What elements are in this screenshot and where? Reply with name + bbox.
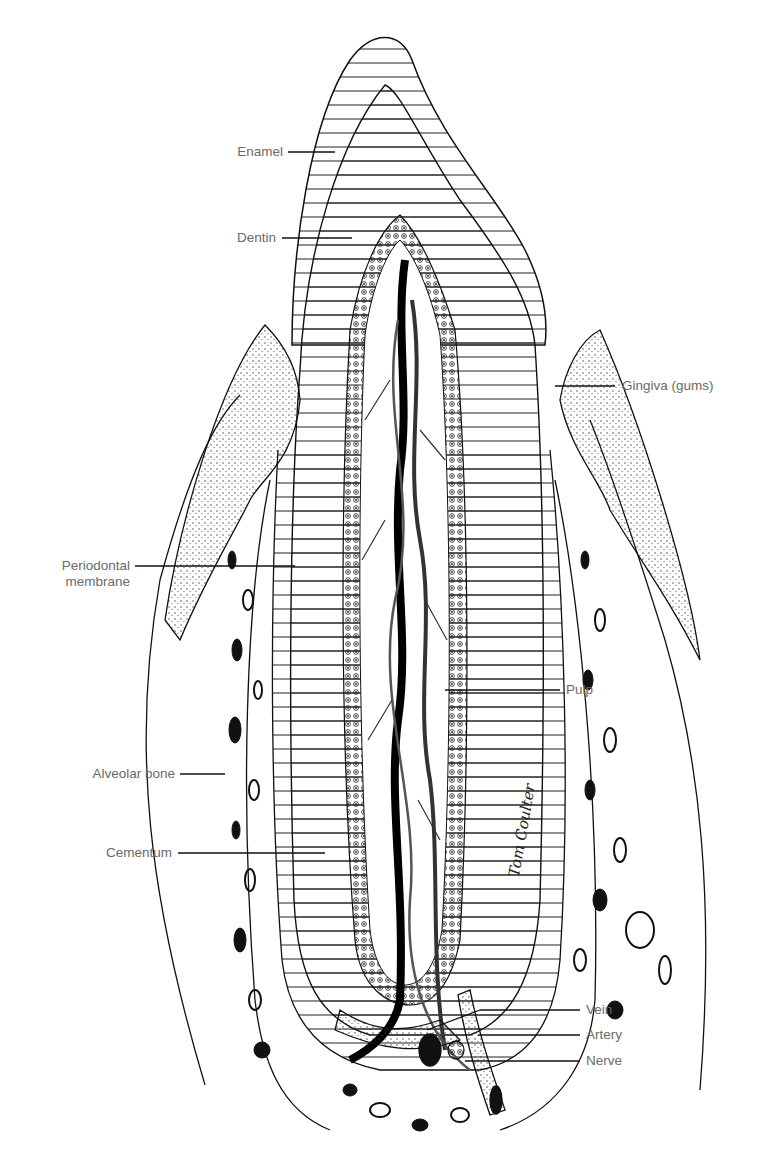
label-artery: Artery — [586, 1027, 622, 1043]
label-periodontal-line1: Periodontal — [62, 558, 130, 573]
label-enamel: Enamel — [208, 144, 283, 160]
label-vein: Vein — [586, 1002, 612, 1018]
label-dentin: Dentin — [204, 230, 276, 246]
label-pulp: Pulp — [566, 682, 593, 698]
label-gingiva: Gingiva (gums) — [622, 378, 714, 394]
label-periodontal-line2: membrane — [65, 574, 130, 589]
label-periodontal-membrane: Periodontal membrane — [20, 558, 130, 590]
label-cementum: Cementum — [90, 845, 172, 861]
label-nerve: Nerve — [586, 1053, 622, 1069]
label-alveolar-bone: Alveolar bone — [60, 766, 175, 782]
